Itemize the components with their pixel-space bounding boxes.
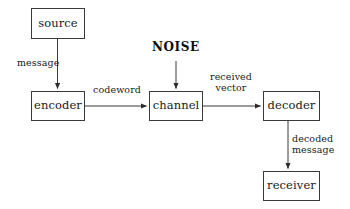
edge-label-message: message (17, 57, 59, 68)
node-decoder[interactable]: decoder (263, 91, 320, 121)
edge-label-received-vector: received vector (206, 71, 256, 93)
edge-label-decoded-message-line1: decoded (292, 133, 334, 144)
edge-label-decoded-message-line2: message (292, 144, 334, 155)
edge-label-received-vector-line2: vector (206, 82, 256, 93)
node-channel-label: channel (153, 100, 200, 112)
node-encoder[interactable]: encoder (31, 91, 85, 121)
node-channel[interactable]: channel (149, 91, 203, 121)
edge-label-codeword: codeword (93, 84, 141, 95)
edge-label-decoded-message: decoded message (292, 133, 334, 155)
node-receiver[interactable]: receiver (263, 171, 320, 201)
node-source[interactable]: source (31, 8, 85, 39)
edge-label-received-vector-line1: received (206, 71, 256, 82)
node-encoder-label: encoder (34, 100, 82, 112)
node-receiver-label: receiver (267, 180, 316, 192)
node-decoder-label: decoder (268, 100, 316, 112)
diagram-canvas: source encoder channel decoder receiver … (0, 0, 350, 209)
node-source-label: source (38, 18, 78, 30)
noise-label: NOISE (152, 40, 200, 54)
